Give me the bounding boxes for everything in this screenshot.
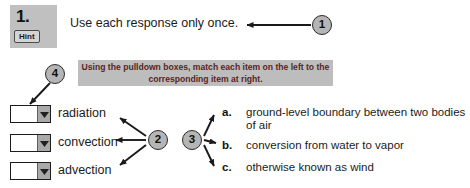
- instruction-callout-bar: Using the pulldown boxes, match each ite…: [78, 60, 333, 86]
- annotation-arrow-2-radiation: [120, 118, 146, 136]
- instruction-callout-line-1: Using the pulldown boxes, match each ite…: [78, 60, 333, 73]
- chevron-down-glyph: [40, 112, 49, 118]
- chevron-down-icon[interactable]: [37, 106, 50, 122]
- question-number-block: 1. Hint: [10, 5, 57, 48]
- annotation-arrow-4: [30, 83, 50, 104]
- annotation-arrow-3-c: [204, 145, 214, 166]
- instruction-callout-line-2: corresponding item at right.: [78, 73, 333, 85]
- response-letter-a: a.: [222, 106, 232, 118]
- chevron-down-icon[interactable]: [37, 135, 50, 151]
- response-text-b: conversion from water to vapor: [246, 139, 470, 152]
- chevron-down-glyph: [40, 169, 49, 175]
- term-label-convection: convection: [58, 135, 118, 149]
- term-label-advection: advection: [58, 163, 112, 177]
- response-letter-b: b.: [222, 139, 232, 151]
- hint-button[interactable]: Hint: [14, 30, 40, 43]
- pulldown-advection[interactable]: [10, 162, 51, 180]
- pulldown-convection[interactable]: [10, 134, 51, 152]
- term-label-radiation: radiation: [58, 106, 106, 120]
- chevron-down-glyph: [40, 141, 49, 147]
- annotation-circle-4: 4: [45, 64, 65, 84]
- annotation-arrow-3-b: [204, 140, 216, 143]
- chevron-down-icon[interactable]: [37, 163, 50, 179]
- annotation-circle-1: 1: [312, 15, 332, 35]
- annotation-circle-2: 2: [148, 130, 168, 150]
- annotation-arrow-3-a: [204, 115, 214, 136]
- question-number: 1.: [16, 7, 29, 27]
- response-letter-c: c.: [222, 161, 232, 173]
- response-text-c: otherwise known as wind: [246, 161, 470, 174]
- annotation-circle-3: 3: [182, 130, 202, 150]
- annotation-arrow-2-advection: [120, 145, 146, 165]
- response-text-a: ground-level boundary between two bodies…: [246, 106, 470, 132]
- top-instruction-text: Use each response only once.: [70, 16, 238, 30]
- pulldown-radiation[interactable]: [10, 105, 51, 123]
